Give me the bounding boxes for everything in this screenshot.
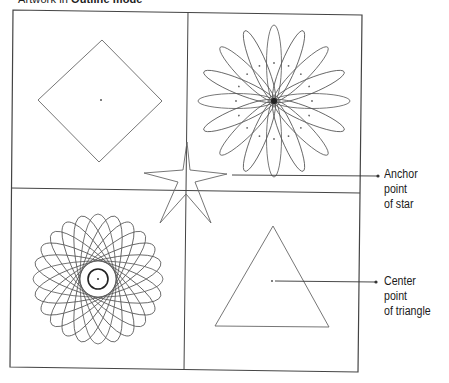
petal-center-point: [238, 85, 240, 87]
callout-line-2: of triangle: [384, 304, 439, 319]
callout-line-2: of star: [384, 197, 439, 212]
petal-center-point: [308, 114, 310, 116]
petal-center-point: [238, 114, 240, 116]
petal-center-point: [235, 100, 237, 102]
triangle-center-callout: Center point of triangle: [384, 274, 439, 319]
petal-center-point: [273, 62, 275, 64]
petal-center-point: [287, 135, 289, 137]
flower-shape: [198, 25, 350, 177]
triangle-shape: [215, 226, 329, 327]
leader-end-dot: [374, 280, 377, 283]
spirograph-center-point: [97, 278, 99, 280]
spirograph-shape: [31, 212, 166, 347]
callout-line-1: Anchor point: [384, 167, 439, 197]
petal-center-point: [258, 65, 260, 67]
outline-artwork-diagram: [0, 0, 449, 383]
triangle-center-point: [271, 280, 273, 282]
petal-center-point: [258, 135, 260, 137]
petal-center-point: [273, 138, 275, 140]
petal-center-point: [311, 100, 313, 102]
leader-end-dot: [376, 174, 379, 177]
callout-line-1: Center point: [384, 274, 439, 304]
petal-center-point: [246, 73, 249, 76]
petal-center-point: [246, 127, 249, 130]
petal-center-point: [300, 73, 303, 76]
triangle-callout-leader: [275, 280, 378, 283]
petal-center-point: [308, 85, 310, 87]
flower-center-point: [271, 98, 277, 104]
diamond-center-point: [100, 99, 102, 101]
star-callout-leader: [232, 174, 380, 177]
star-anchor-callout: Anchor point of star: [384, 167, 439, 212]
diamond-shape: [38, 40, 162, 162]
petal-center-point: [287, 65, 289, 67]
petal-center-point: [300, 127, 303, 130]
